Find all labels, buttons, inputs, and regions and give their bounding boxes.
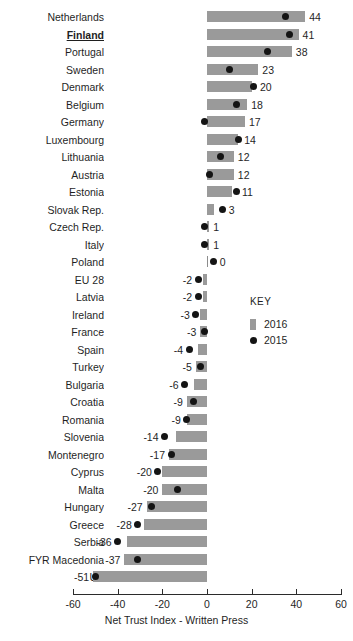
dot-2015 bbox=[148, 503, 155, 510]
axis-tick bbox=[207, 589, 208, 595]
dot-2015 bbox=[134, 521, 141, 528]
value-label: 17 bbox=[249, 113, 261, 131]
value-label: -28 bbox=[92, 516, 132, 534]
bar-2016 bbox=[207, 116, 245, 127]
value-label: -20 bbox=[112, 463, 152, 481]
axis-tick bbox=[341, 589, 342, 595]
dot-2015 bbox=[181, 381, 188, 388]
bar-2016 bbox=[207, 134, 238, 145]
chart-container: Netherlands44Finland41Portugal38Sweden23… bbox=[0, 0, 353, 641]
value-label: -4 bbox=[143, 341, 183, 359]
value-label: 20 bbox=[260, 78, 272, 96]
chart-row: Portugal38 bbox=[0, 43, 353, 61]
chart-row: Malta-20 bbox=[0, 481, 353, 499]
value-label: -9 bbox=[141, 411, 181, 429]
bar-2016 bbox=[207, 186, 232, 197]
chart-row: UK-51 bbox=[0, 568, 353, 586]
legend-label-2016: 2016 bbox=[264, 316, 287, 332]
category-label: Italy bbox=[0, 236, 104, 254]
value-label: 18 bbox=[251, 96, 263, 114]
category-label: Slovak Rep. bbox=[0, 201, 104, 219]
value-label: 3 bbox=[229, 201, 235, 219]
chart-row: Finland41 bbox=[0, 26, 353, 44]
category-label: Greece bbox=[0, 516, 104, 534]
chart-row: Hungary-27 bbox=[0, 498, 353, 516]
value-label: -3 bbox=[156, 323, 196, 341]
chart-row: Sweden23 bbox=[0, 61, 353, 79]
axis-tick-label: -40 bbox=[98, 598, 138, 610]
bar-2016 bbox=[194, 379, 207, 390]
value-label: 38 bbox=[296, 43, 308, 61]
category-label: Estonia bbox=[0, 183, 104, 201]
x-axis: Net Trust Index - Written Press -60-40-2… bbox=[0, 586, 353, 641]
category-label: Austria bbox=[0, 166, 104, 184]
category-label: Bulgaria bbox=[0, 376, 104, 394]
legend-item-2015: 2015 bbox=[250, 332, 350, 348]
dot-2015 bbox=[114, 538, 121, 545]
dot-2015 bbox=[183, 416, 190, 423]
category-label: Portugal bbox=[0, 43, 104, 61]
value-label: 1 bbox=[213, 236, 219, 254]
axis-tick bbox=[252, 589, 253, 595]
chart-row: Lithuania12 bbox=[0, 148, 353, 166]
bar-2016 bbox=[203, 291, 207, 302]
chart-row: Austria12 bbox=[0, 166, 353, 184]
category-label: Poland bbox=[0, 253, 104, 271]
axis-tick-label: 60 bbox=[321, 598, 353, 610]
dot-2015 bbox=[154, 468, 161, 475]
bar-2016 bbox=[93, 571, 207, 582]
bar-2016 bbox=[176, 431, 207, 442]
dot-2015 bbox=[174, 486, 181, 493]
dot-2015 bbox=[233, 188, 240, 195]
value-label: 41 bbox=[303, 26, 315, 44]
category-label: Slovenia bbox=[0, 428, 104, 446]
axis-tick-label: 0 bbox=[187, 598, 227, 610]
legend-dot-icon bbox=[250, 337, 257, 344]
category-label: Montenegro bbox=[0, 446, 104, 464]
bar-2016 bbox=[207, 11, 305, 22]
category-label: Belgium bbox=[0, 96, 104, 114]
dot-2015 bbox=[210, 258, 217, 265]
value-label: -2 bbox=[152, 288, 192, 306]
value-label: -27 bbox=[103, 498, 143, 516]
category-label: Sweden bbox=[0, 61, 104, 79]
axis-title: Net Trust Index - Written Press bbox=[0, 614, 353, 626]
value-label: 12 bbox=[238, 166, 250, 184]
category-label: EU 28 bbox=[0, 271, 104, 289]
chart-row: Cyprus-20 bbox=[0, 463, 353, 481]
dot-2015 bbox=[226, 66, 233, 73]
chart-row: Montenegro-17 bbox=[0, 446, 353, 464]
category-label: Hungary bbox=[0, 498, 104, 516]
chart-row: Germany17 bbox=[0, 113, 353, 131]
dot-2015 bbox=[195, 293, 202, 300]
category-label: France bbox=[0, 323, 104, 341]
value-label: -14 bbox=[119, 428, 159, 446]
category-label: Germany bbox=[0, 113, 104, 131]
value-label: -3 bbox=[150, 306, 190, 324]
axis-tick-label: -20 bbox=[142, 598, 182, 610]
chart-row: Serbia-36 bbox=[0, 533, 353, 551]
bar-2016 bbox=[207, 99, 247, 110]
dot-2015 bbox=[206, 171, 213, 178]
chart-row: Poland0 bbox=[0, 253, 353, 271]
bar-2016 bbox=[207, 204, 214, 215]
category-label: Cyprus bbox=[0, 463, 104, 481]
axis-tick-label: -60 bbox=[53, 598, 93, 610]
chart-row: Greece-28 bbox=[0, 516, 353, 534]
value-label: -2 bbox=[152, 271, 192, 289]
category-label: Latvia bbox=[0, 288, 104, 306]
category-label: Luxembourg bbox=[0, 131, 104, 149]
legend-label-2015: 2015 bbox=[264, 332, 287, 348]
category-label: Denmark bbox=[0, 78, 104, 96]
chart-row: Luxembourg14 bbox=[0, 131, 353, 149]
value-label: 44 bbox=[309, 8, 321, 26]
axis-tick-label: 20 bbox=[232, 598, 272, 610]
dot-2015 bbox=[186, 346, 193, 353]
value-label: 1 bbox=[213, 218, 219, 236]
dot-2015 bbox=[195, 276, 202, 283]
chart-row: Slovak Rep.3 bbox=[0, 201, 353, 219]
dot-2015 bbox=[92, 573, 99, 580]
category-label: Ireland bbox=[0, 306, 104, 324]
category-label: Malta bbox=[0, 481, 104, 499]
legend-bar-swatch-icon bbox=[250, 319, 256, 330]
